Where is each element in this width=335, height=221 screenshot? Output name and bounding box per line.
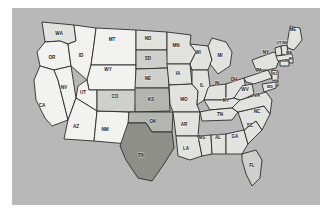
state-label-nj: NJ [273,72,278,76]
state-label-nh: NH [282,41,288,45]
state-label-tn: TN [217,112,224,117]
map-figure: WAORCANVIDMTWYUTAZNMCONDSDNEKSOKTXMNIAMO… [0,0,335,221]
map-panel: WAORCANVIDMTWYUTAZNMCONDSDNEKSOKTXMNIAMO… [12,8,320,205]
state-label-wa: WA [55,31,63,36]
state-label-wv: WV [241,87,249,92]
state-label-al: AL [215,135,221,140]
state-label-ar: AR [181,122,188,127]
state-shape-mn[interactable] [167,32,196,64]
state-label-ri: RI [289,57,293,61]
state-label-ok: OK [150,119,158,124]
state-label-md: MD [267,85,273,89]
state-label-mo: MO [180,97,188,102]
state-shapes-group [34,22,302,186]
state-label-wi: WI [195,50,201,55]
state-label-sd: SD [145,56,152,61]
state-label-ca: CA [39,103,46,108]
state-label-id: ID [79,53,84,58]
state-label-nc: NC [254,109,261,114]
state-label-ma: MA [286,51,292,55]
state-label-ks: KS [148,97,154,102]
state-label-fl: FL [249,163,255,168]
state-label-or: OR [49,55,57,60]
state-label-wy: WY [104,67,111,72]
state-label-co: CO [112,94,119,99]
state-label-az: AZ [73,124,79,129]
state-label-mn: MN [172,43,180,48]
state-label-la: LA [183,146,190,151]
state-label-va: VA [254,93,261,98]
state-label-pa: PA [256,68,263,73]
state-label-in: IN [215,81,220,86]
state-label-ia: IA [176,71,181,76]
state-label-ny: NY [263,50,269,55]
state-label-me: ME [290,27,297,32]
map-canvas: WAORCANVIDMTWYUTAZNMCONDSDNEKSOKTXMNIAMO… [12,8,320,205]
state-shape-ne[interactable] [135,68,169,88]
state-label-ky: KY [223,98,229,103]
state-label-oh: OH [231,77,239,82]
state-label-ga: GA [232,134,240,139]
us-states-svg: WAORCANVIDMTWYUTAZNMCONDSDNEKSOKTXMNIAMO… [12,8,320,205]
state-shape-mt[interactable] [91,28,136,65]
state-shape-tx[interactable] [120,123,174,181]
state-label-nd: ND [145,36,152,41]
state-label-nm: NM [101,127,108,132]
state-label-nv: NV [61,85,68,90]
state-label-il: IL [200,83,204,88]
state-label-de: DE [273,80,279,84]
state-shape-sd[interactable] [136,50,168,69]
state-label-ut: UT [80,90,86,95]
state-label-ms: MS [199,135,206,140]
state-shape-nd[interactable] [136,30,167,50]
state-label-ne: NE [145,76,151,81]
state-label-tx: TX [138,153,145,158]
state-label-sc: SC [247,123,254,128]
state-label-mi: MI [217,53,222,58]
state-label-ct: CT [281,59,287,63]
state-label-mt: MT [109,37,116,42]
